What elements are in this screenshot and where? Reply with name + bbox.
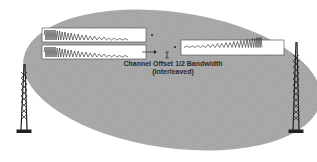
diagram-canvas (0, 0, 317, 162)
waveform-box-right (174, 38, 284, 56)
caption-line-1: Channel Offset 1/2 Bandwidth (118, 60, 228, 68)
waveform-box-bottom-left (42, 45, 157, 59)
caption-line-2: (Interleaved) (118, 68, 228, 76)
waveform-box-top-left (42, 28, 153, 42)
channel-offset-caption: Channel Offset 1/2 Bandwidth (Interleave… (118, 60, 228, 76)
coverage-ellipse (14, 0, 317, 162)
